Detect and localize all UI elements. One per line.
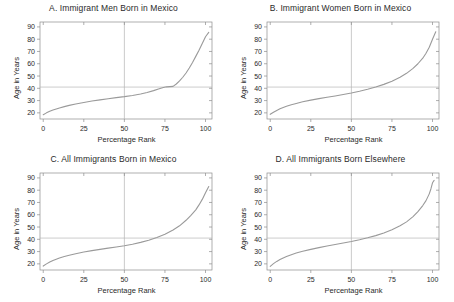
y-tick-label: 40 — [254, 236, 262, 243]
y-axis-label: Age in Years — [12, 56, 21, 98]
x-axis-label: Percentage Rank — [240, 286, 454, 295]
x-tick-label: 50 — [120, 125, 128, 132]
y-tick-label: 20 — [254, 260, 262, 267]
data-series-curve — [270, 32, 436, 115]
x-tick-label: 50 — [347, 276, 355, 283]
y-tick-label: 90 — [27, 174, 35, 181]
chart-panel-b: B. Immigrant Women Born in Mexico2030405… — [227, 0, 454, 151]
y-tick-label: 50 — [27, 73, 35, 80]
x-tick-label: 25 — [307, 125, 315, 132]
y-tick-label: 80 — [254, 36, 262, 43]
y-tick-label: 70 — [254, 48, 262, 55]
data-series-curve — [270, 180, 434, 266]
y-tick-label: 80 — [254, 187, 262, 194]
y-tick-label: 40 — [27, 236, 35, 243]
y-tick-label: 30 — [254, 248, 262, 255]
y-tick-label: 60 — [27, 60, 35, 67]
data-series-curve — [43, 32, 209, 114]
y-axis-label: Age in Years — [239, 207, 248, 249]
y-tick-label: 40 — [254, 85, 262, 92]
y-tick-label: 30 — [254, 97, 262, 104]
y-tick-label: 60 — [254, 211, 262, 218]
y-tick-label: 20 — [254, 109, 262, 116]
x-tick-label: 75 — [161, 276, 169, 283]
x-tick-label: 0 — [41, 125, 45, 132]
y-tick-label: 30 — [27, 248, 35, 255]
x-tick-label: 100 — [200, 125, 212, 132]
chart-panel-a: A. Immigrant Men Born in Mexico203040506… — [0, 0, 227, 151]
y-tick-label: 50 — [254, 224, 262, 231]
y-tick-label: 50 — [254, 73, 262, 80]
x-tick-label: 25 — [307, 276, 315, 283]
x-axis-label: Percentage Rank — [13, 135, 240, 144]
x-tick-label: 100 — [427, 276, 439, 283]
y-tick-label: 90 — [27, 23, 35, 30]
x-tick-label: 0 — [268, 276, 272, 283]
plot-area-c: 20304050607080900255075100 — [0, 151, 227, 302]
y-axis-label: Age in Years — [12, 207, 21, 249]
x-tick-label: 100 — [427, 125, 439, 132]
x-tick-label: 0 — [41, 276, 45, 283]
chart-panel-d: D. All Immigrants Born Elsewhere20304050… — [227, 151, 454, 302]
plot-area-b: 20304050607080900255075100 — [227, 0, 454, 151]
y-axis-label: Age in Years — [239, 56, 248, 98]
y-tick-label: 30 — [27, 97, 35, 104]
y-tick-label: 70 — [27, 199, 35, 206]
y-tick-label: 90 — [254, 23, 262, 30]
x-tick-label: 75 — [388, 125, 396, 132]
x-tick-label: 100 — [200, 276, 212, 283]
y-tick-label: 90 — [254, 174, 262, 181]
x-axis-label: Percentage Rank — [240, 135, 454, 144]
y-tick-label: 40 — [27, 85, 35, 92]
plot-area-a: 20304050607080900255075100 — [0, 0, 227, 151]
x-tick-label: 0 — [268, 125, 272, 132]
x-tick-label: 25 — [80, 276, 88, 283]
chart-panel-c: C. All Immigrants Born in Mexico20304050… — [0, 151, 227, 302]
x-axis-label: Percentage Rank — [13, 286, 240, 295]
y-tick-label: 60 — [254, 60, 262, 67]
y-tick-label: 70 — [27, 48, 35, 55]
y-tick-label: 20 — [27, 260, 35, 267]
data-series-curve — [43, 187, 209, 267]
x-tick-label: 75 — [161, 125, 169, 132]
x-tick-label: 50 — [347, 125, 355, 132]
y-tick-label: 70 — [254, 199, 262, 206]
y-tick-label: 80 — [27, 36, 35, 43]
x-tick-label: 50 — [120, 276, 128, 283]
y-tick-label: 20 — [27, 109, 35, 116]
figure-panel-grid: A. Immigrant Men Born in Mexico203040506… — [0, 0, 454, 302]
x-tick-label: 25 — [80, 125, 88, 132]
plot-area-d: 20304050607080900255075100 — [227, 151, 454, 302]
y-tick-label: 80 — [27, 187, 35, 194]
y-tick-label: 60 — [27, 211, 35, 218]
x-tick-label: 75 — [388, 276, 396, 283]
y-tick-label: 50 — [27, 224, 35, 231]
